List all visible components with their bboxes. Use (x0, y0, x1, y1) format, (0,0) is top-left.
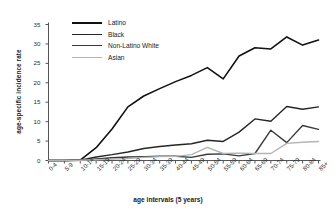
legend-label: Non-Latino White (108, 42, 159, 49)
legend-swatch-icon (72, 34, 102, 35)
legend-label: Black (108, 31, 124, 38)
y-tick-label: 20 (19, 79, 41, 86)
y-tick-label: 35 (19, 21, 41, 28)
y-tick-label: 30 (19, 40, 41, 47)
x-axis-title: age intervals (5 years) (0, 196, 336, 203)
chart-legend: LatinoBlackNon-Latino WhiteAsian (72, 17, 159, 63)
legend-item-non-latino-white[interactable]: Non-Latino White (72, 40, 159, 52)
y-tick-label: 0 (19, 157, 41, 164)
legend-swatch-icon (72, 22, 102, 24)
y-tick-label: 15 (19, 98, 41, 105)
legend-item-asian[interactable]: Asian (72, 52, 159, 64)
chart-figure: age-specific incidence rate age interval… (0, 0, 336, 216)
y-tick-label: 5 (19, 137, 41, 144)
legend-label: Asian (108, 54, 125, 61)
legend-item-latino[interactable]: Latino (72, 17, 159, 29)
y-tick-label: 10 (19, 118, 41, 125)
legend-swatch-icon (72, 45, 102, 46)
legend-label: Latino (108, 19, 126, 26)
line-chart-plot (0, 0, 336, 216)
legend-swatch-icon (72, 57, 102, 58)
legend-item-black[interactable]: Black (72, 29, 159, 41)
y-tick-label: 25 (19, 59, 41, 66)
